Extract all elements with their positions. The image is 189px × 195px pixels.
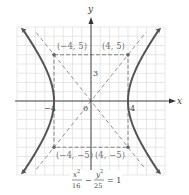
eq-minus: −: [85, 176, 92, 185]
point-marker: [126, 145, 130, 149]
point-marker: [126, 53, 130, 57]
eq-x-den: 16: [72, 182, 80, 190]
point-label-neg4-5: (−4, 5): [57, 41, 87, 51]
eq-y-den: 25: [94, 182, 102, 190]
hyperbola-diagram: x y −4 4 0 3 (−4, 5) (4, 5) (−4, −5) (4,…: [0, 0, 189, 195]
tick-label-origin: 0: [83, 104, 88, 113]
point-label-4-neg5: (4, −5): [95, 150, 125, 160]
y-axis-label: y: [87, 4, 94, 14]
y-axis-arrow-icon: [89, 17, 94, 24]
tick-label-x-neg4: −4: [44, 104, 56, 113]
tick-label-y-3: 3: [93, 69, 98, 78]
x-axis-arrow-icon: [169, 99, 176, 104]
x-axis-label: x: [177, 96, 182, 106]
point-marker: [52, 145, 56, 149]
point-label-neg4-neg5: (−4, −5): [56, 150, 93, 160]
equation: x 2 16 − y 2 25 = 1: [70, 168, 122, 195]
eq-rhs: = 1: [107, 176, 121, 185]
eq-x-exp: 2: [77, 168, 80, 174]
tick-label-x-4: 4: [130, 104, 135, 113]
point-marker: [52, 53, 56, 57]
point-label-4-5: (4, 5): [102, 41, 125, 51]
eq-y-exp: 2: [100, 168, 103, 174]
